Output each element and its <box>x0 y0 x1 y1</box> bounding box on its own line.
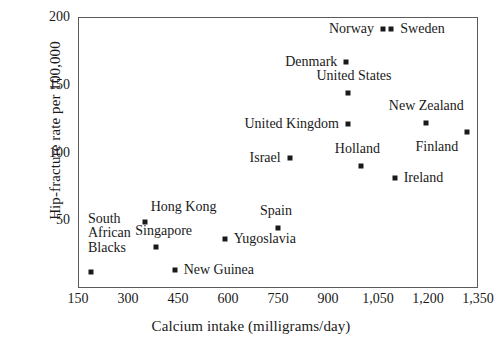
data-point-label: Singapore <box>135 224 192 239</box>
data-point-marker <box>424 120 429 125</box>
data-point-label: United Kingdom <box>245 117 340 132</box>
data-point-label: Hong Kong <box>151 199 217 214</box>
x-tick-label: 900 <box>318 291 339 307</box>
data-point-label: Norway <box>329 22 374 37</box>
data-point-marker <box>346 90 351 95</box>
data-point-marker <box>89 269 94 274</box>
data-point-label: Ireland <box>404 171 444 186</box>
x-axis-title: Calcium intake (milligrams/day) <box>0 318 502 335</box>
data-point-marker <box>287 155 292 160</box>
data-point-label: Yugoslavia <box>234 232 296 247</box>
data-point-label: Finland <box>416 140 459 155</box>
data-point-marker <box>222 237 227 242</box>
y-tick-label: 200 <box>0 9 70 25</box>
data-point-label: New Zealand <box>389 98 464 113</box>
data-point-marker <box>153 245 158 250</box>
x-tick-label: 1,050 <box>362 291 394 307</box>
data-point-marker <box>344 59 349 64</box>
data-point-label: Israel <box>250 151 281 166</box>
x-tick-label: 1,200 <box>412 291 444 307</box>
data-point-label: Sweden <box>400 22 444 37</box>
x-tick-label: 450 <box>168 291 189 307</box>
data-point-marker <box>359 164 364 169</box>
x-tick-label: 600 <box>218 291 239 307</box>
data-point-marker <box>392 176 397 181</box>
x-tick-label: 150 <box>68 291 89 307</box>
data-point-label: Holland <box>335 142 380 157</box>
data-point-marker <box>346 122 351 127</box>
y-axis-title: Hip-fracture rate per 100,000 <box>47 0 64 281</box>
y-tick-label: 100 <box>0 145 70 161</box>
x-tick-label: 300 <box>118 291 139 307</box>
y-tick-label: 150 <box>0 77 70 93</box>
data-point-label: United States <box>316 69 391 84</box>
x-tick-label: 750 <box>268 291 289 307</box>
scatter-chart: Hip-fracture rate per 100,000 Calcium in… <box>0 0 502 346</box>
data-point-label: Spain <box>260 204 292 219</box>
data-point-label: New Guinea <box>184 263 254 278</box>
x-tick-label: 1,350 <box>462 291 494 307</box>
data-point-marker <box>172 268 177 273</box>
data-point-marker <box>465 130 470 135</box>
data-point-marker <box>389 27 394 32</box>
data-point-marker <box>381 27 386 32</box>
y-tick-label: 50 <box>0 212 70 228</box>
data-point-label: SouthAfricanBlacks <box>88 212 131 256</box>
